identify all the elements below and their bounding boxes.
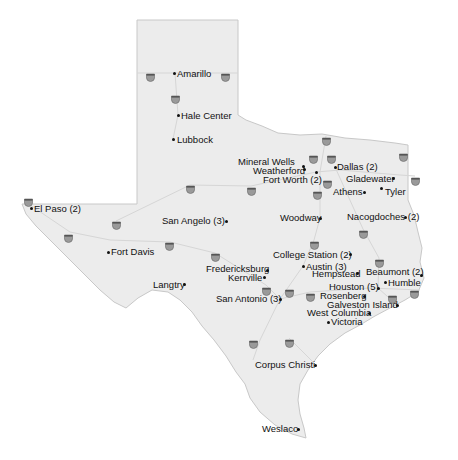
interstate-shield-icon [306,288,315,297]
city-label: Beaumont (2) [366,266,424,277]
city-label: Amarillo [177,68,211,79]
city-label: Dallas (2) [337,161,378,172]
interstate-shield-icon [285,334,294,343]
city-label: College Station (2) [273,249,352,260]
interstate-shield-icon [388,290,397,299]
city-label: Tyler [385,186,406,197]
city-marker-icon[interactable] [302,265,305,268]
interstate-shield-icon [186,180,195,189]
city-label: Corpus Christi [255,359,315,370]
city-marker-icon[interactable] [173,72,176,75]
city-label: Weslaco [262,423,298,434]
interstate-shield-icon [411,172,420,181]
city-label: Victoria [331,316,363,327]
city-marker-icon[interactable] [107,251,110,254]
city-label: Humble [388,277,421,288]
interstate-shield-icon [211,248,220,257]
city-label: Lubbock [177,134,213,145]
interstate-shield-icon [323,175,332,184]
city-marker-icon[interactable] [327,321,330,324]
city-label: Hempstead [312,268,361,279]
interstate-shield-icon [399,148,408,157]
interstate-shield-icon [359,225,368,234]
interstate-shield-icon [24,193,33,202]
city-marker-icon[interactable] [380,187,383,190]
city-marker-icon[interactable] [263,276,266,279]
city-marker-icon[interactable] [384,281,387,284]
interstate-shield-icon [309,150,318,159]
interstate-shield-icon [285,284,294,293]
interstate-shield-icon [64,229,73,238]
interstate-shield-icon [112,216,121,225]
interstate-shield-icon [310,236,319,245]
city-marker-icon[interactable] [177,114,180,117]
city-label: Woodway [280,212,322,223]
interstate-shield-icon [249,335,258,344]
interstate-shield-icon [262,282,271,291]
city-label: Nacogdoches (2) [347,211,419,222]
interstate-shield-icon [247,182,256,191]
interstate-shield-icon [165,237,174,246]
city-label: Hale Center [181,110,232,121]
city-label: Kerrville [228,272,262,283]
city-label: El Paso (2) [34,203,81,214]
city-label: San Antonio (3) [216,293,282,304]
city-label: Gladewater [346,173,395,184]
interstate-shield-icon [313,186,322,195]
city-marker-icon[interactable] [30,207,33,210]
interstate-shield-icon [375,254,384,263]
city-label: Langtry [153,279,185,290]
city-label: Athens [333,186,363,197]
interstate-shield-icon [171,90,180,99]
city-label: Fort Worth (2) [263,174,322,185]
city-label: San Angelo (3) [162,215,225,226]
interstate-shield-icon [221,68,230,77]
interstate-shield-icon [146,68,155,77]
city-label: Fort Davis [111,246,154,257]
city-marker-icon[interactable] [225,220,228,223]
city-marker-icon[interactable] [172,138,175,141]
interstate-shield-icon [322,132,331,141]
interstate-shield-icon [327,150,336,159]
